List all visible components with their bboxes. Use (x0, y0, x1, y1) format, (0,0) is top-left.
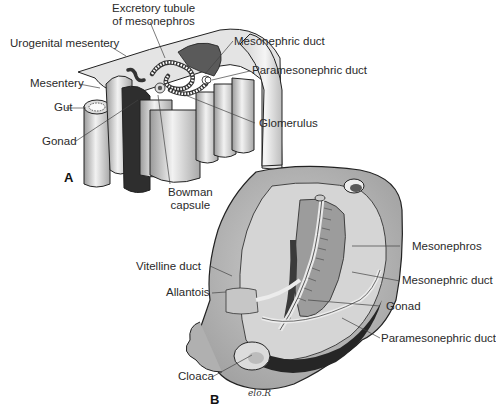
label-gonad-a: Gonad (42, 135, 77, 148)
label-bowman-capsule: Bowman capsule (168, 186, 213, 212)
label-glomerulus: Glomerulus (259, 117, 318, 130)
label-allantois: Allantois (166, 286, 209, 299)
panel-b-embryo (186, 166, 402, 389)
label-line: Excretory tubule (112, 2, 195, 15)
artist-signature: elo.R (248, 388, 271, 398)
panel-a-cross-section (78, 29, 282, 192)
label-cloaca: Cloaca (178, 370, 214, 383)
label-line: of mesonephros (112, 15, 195, 28)
label-urogenital-mesentery: Urogenital mesentery (10, 37, 119, 50)
label-paramesonephric-duct-a: Paramesonephric duct (252, 64, 367, 77)
label-excretory-tubule: Excretory tubule of mesonephros (112, 2, 195, 28)
label-paramesonephric-duct-b: Paramesonephric duct (381, 332, 496, 345)
label-mesonephric-duct-b: Mesonephric duct (402, 274, 493, 287)
label-mesentery: Mesentery (30, 77, 84, 90)
label-line: capsule (168, 199, 213, 212)
label-line: Bowman (168, 186, 213, 199)
label-mesonephric-duct-a: Mesonephric duct (234, 35, 325, 48)
panel-label-a: A (64, 170, 73, 185)
label-gut: Gut (54, 101, 73, 114)
label-vitelline-duct: Vitelline duct (136, 260, 201, 273)
panel-label-b: B (210, 392, 219, 407)
label-gonad-b: Gonad (386, 300, 421, 313)
label-mesonephros: Mesonephros (412, 240, 482, 253)
